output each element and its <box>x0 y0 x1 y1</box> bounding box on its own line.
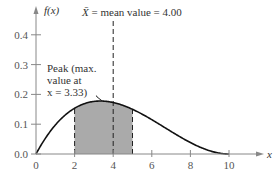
x-tick-label: 6 <box>149 159 155 171</box>
mean-text: = mean value = 4.00 <box>89 6 183 18</box>
x-tick-label: 4 <box>110 159 116 171</box>
x-tick-label: 10 <box>224 159 236 171</box>
x-axis-label: x <box>266 148 272 160</box>
peak-annotation-line-3: x = 3.33) <box>47 86 87 99</box>
x-tick-label: 0 <box>33 159 39 171</box>
y-tick-label: 0.1 <box>14 118 28 130</box>
y-axis-arrow <box>34 6 39 14</box>
y-tick-label: 0.4 <box>14 29 28 41</box>
x-tick-label: 2 <box>72 159 78 171</box>
x-tick-label: 8 <box>188 159 194 171</box>
y-tick-label: 0.0 <box>14 148 28 160</box>
y-axis-label: f(x) <box>44 4 60 17</box>
x-axis-arrow <box>256 152 264 157</box>
y-tick-label: 0.2 <box>14 88 28 100</box>
mean-annotation: X̄ = mean value = 4.00 <box>81 6 182 18</box>
shaded-region <box>75 101 133 154</box>
chart: 02468100.00.10.20.30.4 x f(x) X̄ = mean … <box>0 0 278 182</box>
y-tick-label: 0.3 <box>14 59 28 71</box>
peak-annotation-line-2: value at <box>47 74 82 86</box>
